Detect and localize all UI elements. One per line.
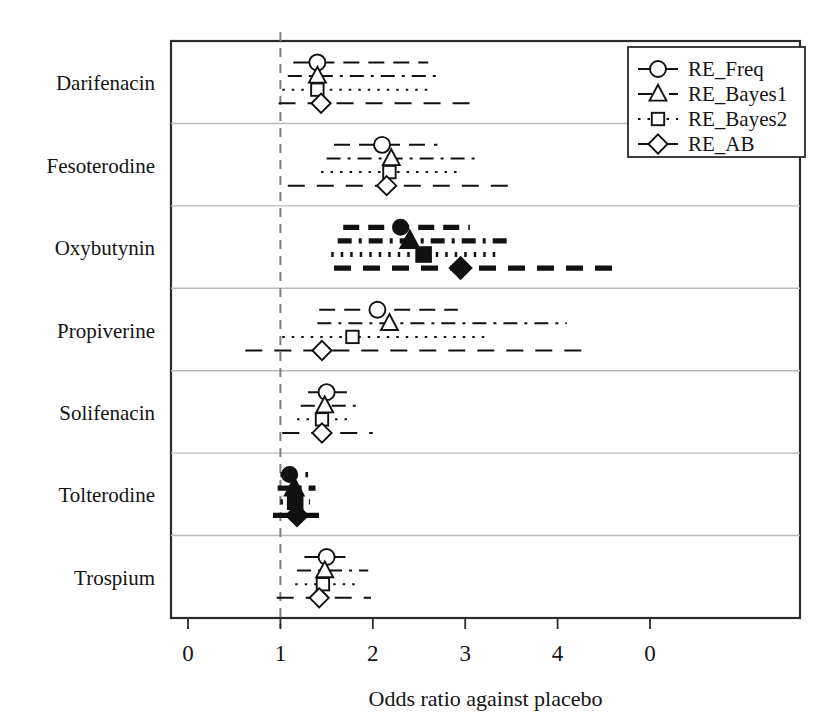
x-tick-label: 2: [367, 641, 379, 666]
marker-re_freq-fesoterodine: [374, 137, 390, 153]
legend-label-re_freq: RE_Freq: [688, 57, 764, 81]
category-label-darifenacin: Darifenacin: [56, 71, 156, 95]
legend-label-re_ab: RE_AB: [688, 132, 755, 156]
marker-re_bayes2-propiverine: [346, 331, 358, 343]
x-tick-label: 3: [459, 641, 471, 666]
marker-re_ab-oxybutynin: [450, 258, 471, 279]
forest-plot-figure: 012340Odds ratio against placeboDarifena…: [0, 0, 832, 728]
marker-re_bayes1-darifenacin: [309, 67, 326, 83]
x-axis-title: Odds ratio against placebo: [369, 686, 603, 711]
marker-re_bayes2-oxybutynin: [417, 247, 431, 261]
forest-plot-svg: 012340Odds ratio against placeboDarifena…: [0, 0, 832, 728]
category-label-solifenacin: Solifenacin: [59, 401, 155, 425]
category-label-tolterodine: Tolterodine: [59, 483, 156, 507]
legend-marker-re_bayes2: [652, 113, 664, 125]
x-tick-label: 0: [182, 641, 194, 666]
marker-re_freq-trospium: [319, 549, 335, 565]
legend-label-re_bayes2: RE_Bayes2: [688, 107, 787, 131]
legend-marker-re_freq: [650, 61, 666, 77]
marker-re_freq-propiverine: [369, 302, 385, 318]
x-tick-label: 1: [275, 641, 287, 666]
x-tick-label: 4: [552, 641, 564, 666]
marker-re_ab-propiverine: [312, 341, 331, 360]
category-label-oxybutynin: Oxybutynin: [55, 236, 156, 260]
marker-re_bayes1-propiverine: [381, 314, 398, 330]
x-tick-label: 0: [644, 641, 656, 666]
category-label-propiverine: Propiverine: [57, 319, 155, 343]
marker-re_freq-solifenacin: [319, 384, 335, 400]
category-label-trospium: Trospium: [74, 566, 155, 590]
marker-re_freq-oxybutynin: [393, 220, 407, 234]
category-label-fesoterodine: Fesoterodine: [47, 154, 155, 178]
legend-label-re_bayes1: RE_Bayes1: [688, 82, 787, 106]
